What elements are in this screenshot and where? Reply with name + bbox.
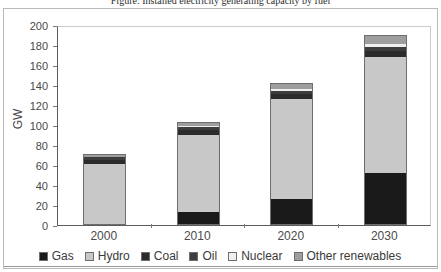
legend-swatch-icon: [294, 252, 303, 261]
bar-segment-hydro[interactable]: [364, 57, 407, 173]
plot-area: [57, 26, 431, 226]
figure-title-text: Figure: Installed electricity generating…: [111, 0, 330, 6]
y-tick-mark: [53, 226, 57, 227]
bar-segment-gas[interactable]: [364, 173, 407, 225]
bar-stack[interactable]: [177, 122, 220, 225]
x-tick-label: 2020: [256, 229, 326, 243]
legend-label: Oil: [202, 249, 217, 263]
legend-swatch-icon: [141, 252, 150, 261]
x-tick-label: 2000: [69, 229, 139, 243]
x-tick-label: 2030: [349, 229, 419, 243]
legend-label: Other renewables: [307, 249, 402, 263]
y-tick-label: 20: [36, 200, 48, 212]
bar-stack[interactable]: [83, 154, 126, 225]
figure-title: Figure: Installed electricity generating…: [0, 0, 441, 7]
legend-item-nuclear[interactable]: Nuclear: [228, 249, 282, 263]
y-axis: 020406080100120140160180200: [0, 22, 57, 230]
legend-divider: [4, 266, 437, 267]
x-tick-mark: [151, 224, 152, 228]
y-tick-label: 0: [42, 220, 48, 232]
legend-label: Hydro: [98, 249, 130, 263]
bar-segment-other-renewables[interactable]: [364, 35, 407, 44]
bar-stack[interactable]: [364, 35, 407, 225]
x-axis: 2000201020202030: [57, 228, 431, 246]
legend-item-oil[interactable]: Oil: [189, 249, 217, 263]
legend-swatch-icon: [189, 252, 198, 261]
x-tick-mark: [338, 224, 339, 228]
bar-segment-hydro[interactable]: [270, 99, 313, 199]
y-tick-label: 120: [30, 100, 48, 112]
y-tick-label: 100: [30, 120, 48, 132]
legend-item-coal[interactable]: Coal: [141, 249, 179, 263]
legend-swatch-icon: [228, 252, 237, 261]
bar-segment-hydro[interactable]: [83, 164, 126, 225]
legend-swatch-icon: [85, 252, 94, 261]
y-tick-label: 80: [36, 140, 48, 152]
bar-segment-hydro[interactable]: [177, 135, 220, 212]
x-tick-mark: [244, 224, 245, 228]
chart-legend: GasHydroCoalOilNuclearOther renewables: [10, 248, 430, 264]
legend-label: Nuclear: [241, 249, 282, 263]
legend-label: Gas: [52, 249, 74, 263]
legend-item-gas[interactable]: Gas: [39, 249, 74, 263]
bar-segment-gas[interactable]: [177, 212, 220, 225]
chart-screenshot: Figure: Installed electricity generating…: [0, 0, 441, 272]
bar-segment-gas[interactable]: [270, 199, 313, 225]
legend-swatch-icon: [39, 252, 48, 261]
y-tick-label: 180: [30, 40, 48, 52]
legend-label: Coal: [154, 249, 179, 263]
legend-item-hydro[interactable]: Hydro: [85, 249, 130, 263]
y-tick-label: 200: [30, 20, 48, 32]
y-tick-label: 160: [30, 60, 48, 72]
y-tick-label: 60: [36, 160, 48, 172]
x-tick-label: 2010: [162, 229, 232, 243]
legend-item-other-renewables[interactable]: Other renewables: [294, 249, 402, 263]
y-tick-label: 40: [36, 180, 48, 192]
bar-stack[interactable]: [270, 83, 313, 225]
y-tick-label: 140: [30, 80, 48, 92]
